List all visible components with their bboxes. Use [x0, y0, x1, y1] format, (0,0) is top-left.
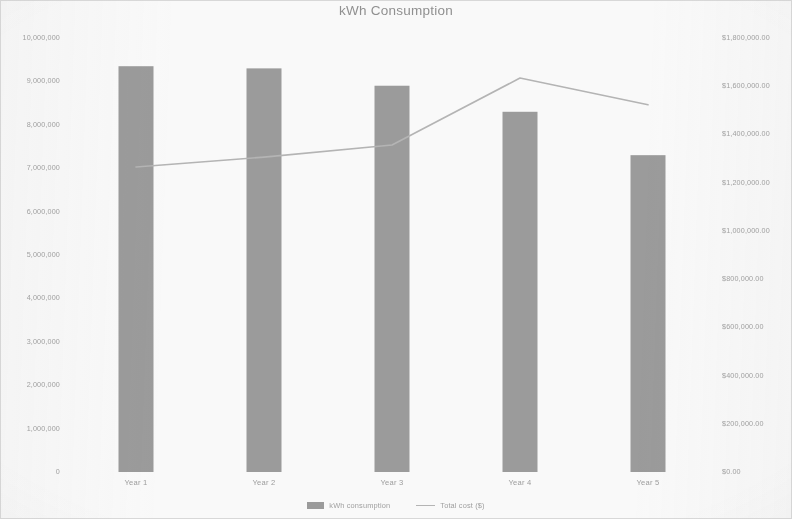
legend-line-swatch-icon	[416, 505, 435, 506]
bar-year-1[interactable]	[119, 66, 154, 472]
right-axis-tick-label: $200,000.00	[722, 420, 764, 428]
chart-title: kWh Consumption	[0, 3, 792, 18]
left-axis-tick-label: 6,000,000	[27, 208, 60, 216]
category-label: Year 3	[381, 478, 404, 487]
category-axis: Year 1Year 2Year 3Year 4Year 5	[72, 478, 712, 494]
category-label: Year 2	[253, 478, 276, 487]
right-axis-tick-label: $0.00	[722, 468, 741, 476]
left-axis-tick-label: 3,000,000	[27, 338, 60, 346]
category-label: Year 4	[509, 478, 532, 487]
left-value-axis: 10,000,0009,000,0008,000,0007,000,0006,0…	[0, 38, 66, 472]
left-axis-tick-label: 7,000,000	[27, 164, 60, 172]
right-axis-tick-label: $800,000.00	[722, 275, 764, 283]
left-axis-tick-label: 4,000,000	[27, 294, 60, 302]
bar-year-4[interactable]	[503, 112, 538, 472]
left-axis-tick-label: 0	[56, 468, 60, 476]
left-axis-tick-label: 8,000,000	[27, 121, 60, 129]
right-axis-tick-label: $600,000.00	[722, 323, 764, 331]
bar-series-group	[119, 66, 666, 472]
right-value-axis: $1,800,000.00$1,600,000.00$1,400,000.00$…	[716, 38, 792, 472]
bar-year-2[interactable]	[247, 68, 282, 472]
category-label: Year 5	[637, 478, 660, 487]
left-axis-tick-label: 1,000,000	[27, 425, 60, 433]
left-axis-tick-label: 5,000,000	[27, 251, 60, 259]
plot-area	[72, 38, 712, 472]
left-axis-tick-label: 2,000,000	[27, 381, 60, 389]
legend-label-kwh-consumption: kWh consumption	[329, 501, 390, 510]
chart-plot-svg	[72, 38, 712, 472]
legend-label-total-cost: Total cost ($)	[440, 501, 484, 510]
chart-page: kWh Consumption 10,000,0009,000,0008,000…	[0, 0, 792, 519]
right-axis-tick-label: $1,800,000.00	[722, 34, 770, 42]
category-label: Year 1	[125, 478, 148, 487]
right-axis-tick-label: $400,000.00	[722, 372, 764, 380]
right-axis-tick-label: $1,600,000.00	[722, 82, 770, 90]
legend-entry-kwh-consumption[interactable]: kWh consumption	[307, 501, 390, 510]
bar-year-5[interactable]	[631, 155, 666, 472]
legend-entry-total-cost[interactable]: Total cost ($)	[416, 501, 484, 510]
right-axis-tick-label: $1,000,000.00	[722, 227, 770, 235]
right-axis-tick-label: $1,200,000.00	[722, 179, 770, 187]
left-axis-tick-label: 10,000,000	[23, 34, 60, 42]
left-axis-tick-label: 9,000,000	[27, 77, 60, 85]
chart-legend: kWh consumption Total cost ($)	[0, 501, 792, 510]
bar-year-3[interactable]	[375, 86, 410, 472]
right-axis-tick-label: $1,400,000.00	[722, 130, 770, 138]
legend-bar-swatch-icon	[307, 502, 324, 509]
